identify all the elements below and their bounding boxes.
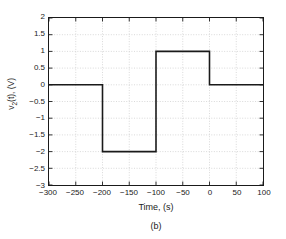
y-axis-tick-labels: 21.510.50−0.5−1−1.5−2−2.5−3 (14, 17, 45, 186)
waveform-series (49, 18, 263, 185)
x-tick-label: −100 (147, 189, 165, 197)
x-axis-label: Time, (s) (48, 202, 264, 212)
y-axis-label-rest: (t), (V) (6, 78, 16, 102)
y-tick-label: −1.5 (29, 131, 45, 139)
figure: 21.510.50−0.5−1−1.5−2−2.5−3 v2(t), (V) −… (0, 0, 286, 239)
y-tick-label: −2.5 (29, 165, 45, 173)
y-tick-label: 0.5 (34, 64, 45, 72)
x-tick-label: −50 (176, 189, 190, 197)
x-tick-label: −200 (93, 189, 111, 197)
plot-area (48, 17, 264, 186)
figure-caption: (b) (48, 221, 264, 231)
x-tick-label: −250 (66, 189, 84, 197)
y-tick-label: 1 (41, 47, 45, 55)
y-axis-label-subscript: 2 (11, 102, 18, 106)
x-tick-label: 100 (257, 189, 270, 197)
x-tick-label: −150 (120, 189, 138, 197)
y-tick-label: 0 (41, 81, 45, 89)
x-tick-label: 0 (208, 189, 212, 197)
y-tick-label: 1.5 (34, 30, 45, 38)
y-tick-label: −0.5 (29, 98, 45, 106)
series-line (49, 51, 263, 151)
y-tick-label: −1 (36, 114, 45, 122)
x-axis-tick-labels: −300−250−200−150−100−50050100 (48, 189, 264, 201)
x-tick-label: 50 (233, 189, 242, 197)
y-axis-label-base: v (6, 106, 16, 110)
y-tick-label: 2 (41, 13, 45, 21)
y-axis-label: v2(t), (V) (6, 58, 18, 130)
x-tick-label: −300 (39, 189, 57, 197)
y-tick-label: −2 (36, 148, 45, 156)
